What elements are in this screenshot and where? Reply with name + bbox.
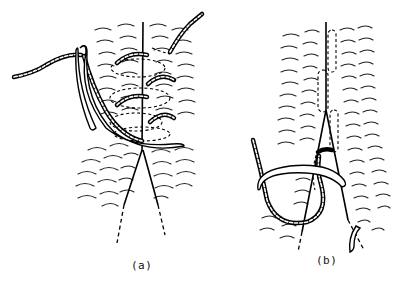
panel-b-drawing	[253, 22, 390, 252]
incision-dashed-end-a	[117, 205, 165, 243]
panel-label-a: (a)	[131, 259, 152, 272]
suture-technique-figure: (a) (b)	[0, 0, 408, 281]
panel-label-b: (b)	[316, 254, 337, 267]
panel-a-drawing	[14, 14, 202, 243]
curved-needle-b	[258, 165, 346, 190]
skin-texture-right-b	[340, 26, 390, 230]
thread-loop-b	[253, 140, 332, 223]
